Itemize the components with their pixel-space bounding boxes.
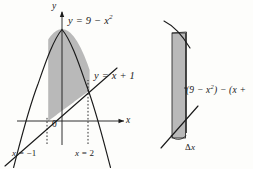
line-equation-label: y = x + 1 bbox=[94, 71, 135, 82]
delta-x-label: Δx bbox=[185, 143, 195, 152]
left-panel bbox=[5, 11, 124, 168]
left-boundary-label: x = −1 bbox=[12, 149, 36, 158]
rectangle-height-label: (9 − x2) − (x + bbox=[186, 84, 246, 96]
y-axis-label: y bbox=[52, 2, 56, 12]
x-axis-label: x bbox=[126, 116, 130, 126]
parabola-equation-label: y = 9 − x2 bbox=[68, 14, 113, 26]
y-axis-arrowhead bbox=[60, 11, 64, 17]
x-axis-arrowhead bbox=[119, 119, 125, 123]
right-boundary-label: x = 2 bbox=[75, 149, 94, 158]
origin-label: 0 bbox=[52, 120, 57, 130]
